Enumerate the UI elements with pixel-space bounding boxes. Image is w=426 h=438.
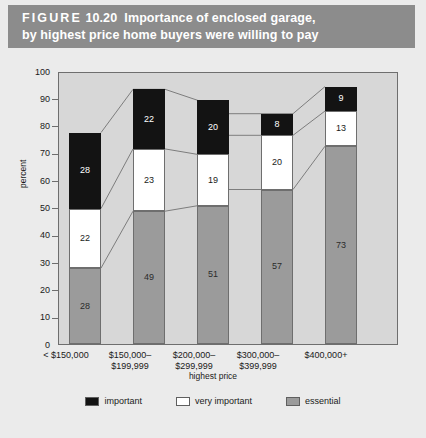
y-tick-label-20: 20 xyxy=(26,286,50,295)
y-tick-label-70: 70 xyxy=(26,149,50,158)
y-tick-label-0: 0 xyxy=(26,341,50,350)
legend-item-essential[interactable]: essential xyxy=(286,396,341,406)
bar-4-segment-important[interactable]: 8 xyxy=(261,114,293,136)
bar-1-label-essential: 28 xyxy=(80,302,90,311)
x-tick-label-1: < $150,000 xyxy=(34,350,98,361)
bar-4-label-very-important: 20 xyxy=(272,158,282,167)
bar-1-label-very-important: 22 xyxy=(80,234,90,243)
figure-title-line-2: by highest price home buyers were willin… xyxy=(22,27,415,44)
y-tick-label-30: 30 xyxy=(26,259,50,268)
plot-area: 28 22 28 49 23 22 xyxy=(58,72,398,345)
x-tick-label-4-line1: $300,000– xyxy=(226,350,290,361)
x-tick-label-1-line1: < $150,000 xyxy=(34,350,98,361)
y-tick-label-60: 60 xyxy=(26,177,50,186)
plot-inner: 28 22 28 49 23 22 xyxy=(59,73,397,344)
y-tick-label-90: 90 xyxy=(26,95,50,104)
x-tick-label-3-line1: $200,000– xyxy=(162,350,226,361)
figure-number: 10.20 xyxy=(85,11,117,25)
bar-group-3[interactable]: 51 19 20 xyxy=(197,100,229,344)
figure-title-line-1: FIGURE 10.20 Importance of enclosed gara… xyxy=(22,10,415,27)
bar-5-label-essential: 73 xyxy=(336,241,346,250)
legend-label-important: important xyxy=(104,396,142,406)
bar-4-segment-essential[interactable]: 57 xyxy=(261,190,293,345)
bar-3-segment-essential[interactable]: 51 xyxy=(197,206,229,344)
bar-4-label-important: 8 xyxy=(274,120,279,129)
bar-1-segment-essential[interactable]: 28 xyxy=(69,268,101,344)
bar-1-label-important: 28 xyxy=(80,166,90,175)
figure-card: FIGURE 10.20 Importance of enclosed gara… xyxy=(0,0,426,438)
figure-label: FIGURE xyxy=(22,11,82,25)
bar-2-label-very-important: 23 xyxy=(144,176,154,185)
bar-3-label-very-important: 19 xyxy=(208,176,218,185)
legend-item-very-important[interactable]: very important xyxy=(176,396,252,406)
bar-5-segment-important[interactable]: 9 xyxy=(325,87,357,111)
figure-title-band: FIGURE 10.20 Importance of enclosed gara… xyxy=(8,5,415,48)
y-tick-label-100: 100 xyxy=(26,68,50,77)
x-tick-label-5: $400,000+ xyxy=(290,350,362,361)
x-tick-label-4: $300,000– $399,999 xyxy=(226,350,290,372)
x-tick-label-2: $150,000– $199,999 xyxy=(98,350,162,372)
bar-2-segment-important[interactable]: 22 xyxy=(133,89,165,149)
legend-swatch-very-important-icon xyxy=(176,397,190,406)
bar-5-segment-very-important[interactable]: 13 xyxy=(325,111,357,146)
bar-3-segment-important[interactable]: 20 xyxy=(197,100,229,154)
y-tick-label-40: 40 xyxy=(26,231,50,240)
legend-swatch-essential-icon xyxy=(286,397,300,406)
bar-1-segment-very-important[interactable]: 22 xyxy=(69,209,101,269)
bar-2-segment-very-important[interactable]: 23 xyxy=(133,149,165,211)
x-tick-label-3: $200,000– $299,999 xyxy=(162,350,226,372)
bar-3-segment-very-important[interactable]: 19 xyxy=(197,154,229,206)
bar-2-label-important: 22 xyxy=(144,115,154,124)
bar-3-label-important: 20 xyxy=(208,123,218,132)
legend-swatch-important-icon xyxy=(85,397,99,406)
x-tick-label-5-line1: $400,000+ xyxy=(290,350,362,361)
x-tick-label-2-line1: $150,000– xyxy=(98,350,162,361)
bar-2-segment-essential[interactable]: 49 xyxy=(133,211,165,344)
y-tick-label-80: 80 xyxy=(26,122,50,131)
bar-5-label-important: 9 xyxy=(338,94,343,103)
y-tick-label-10: 10 xyxy=(26,313,50,322)
figure-title-text-1: Importance of enclosed garage, xyxy=(124,11,315,25)
bar-4-segment-very-important[interactable]: 20 xyxy=(261,135,293,189)
bar-group-4[interactable]: 57 20 8 xyxy=(261,114,293,344)
bar-4-label-essential: 57 xyxy=(272,262,282,271)
bar-5-segment-essential[interactable]: 73 xyxy=(325,146,357,344)
bar-group-1[interactable]: 28 22 28 xyxy=(69,133,101,344)
bar-2-label-essential: 49 xyxy=(144,273,154,282)
bar-group-2[interactable]: 49 23 22 xyxy=(133,89,165,344)
x-axis-title: highest price xyxy=(0,371,426,381)
y-tick-label-50: 50 xyxy=(26,204,50,213)
bar-1-segment-important[interactable]: 28 xyxy=(69,133,101,209)
chart-legend: important very important essential xyxy=(0,396,426,406)
bar-group-5[interactable]: 73 13 9 xyxy=(325,87,357,345)
legend-label-essential: essential xyxy=(305,396,341,406)
bar-5-label-very-important: 13 xyxy=(336,124,346,133)
bar-3-label-essential: 51 xyxy=(208,270,218,279)
legend-label-very-important: very important xyxy=(195,396,252,406)
legend-item-important[interactable]: important xyxy=(85,396,142,406)
